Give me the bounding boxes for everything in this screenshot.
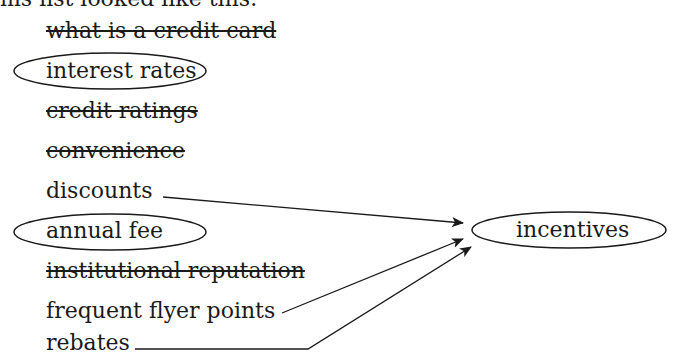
arrow-rebates <box>135 247 471 349</box>
annotation-overlay <box>0 0 677 360</box>
arrow-discounts <box>163 197 463 223</box>
circle-incentives <box>472 212 666 248</box>
circle-annual-fee <box>14 214 206 250</box>
arrow-frequent-flyer <box>282 239 463 313</box>
circle-interest-rates <box>14 53 206 89</box>
